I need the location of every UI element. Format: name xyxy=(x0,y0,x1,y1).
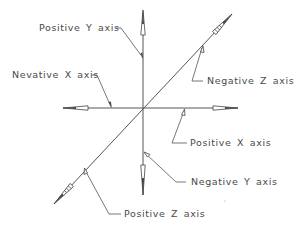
positive-y-label: Positive Y axis xyxy=(39,22,120,33)
negative-z-leader xyxy=(192,48,203,81)
positive-z-arrowhead-icon xyxy=(52,183,73,205)
dot-mark xyxy=(224,200,225,201)
positive-z-label: Positive Z axis xyxy=(124,208,205,219)
positive-y-leader xyxy=(116,28,143,58)
negative-y-label: Negative Y axis xyxy=(191,176,278,187)
axis-labels: Positive Y axis Nevative X axis Negative… xyxy=(12,22,294,219)
coordinate-axes-diagram: Positive Y axis Nevative X axis Negative… xyxy=(0,0,296,226)
positive-z-leader xyxy=(85,170,121,214)
positive-x-label: Positive X axis xyxy=(190,137,271,148)
y-axis xyxy=(141,10,145,195)
negative-y-leader xyxy=(145,153,186,182)
negative-x-label: Nevative X axis xyxy=(12,69,99,80)
negative-z-arrowhead-icon xyxy=(213,12,234,34)
negative-z-label: Negative Z axis xyxy=(207,75,294,86)
x-axis xyxy=(63,106,238,110)
